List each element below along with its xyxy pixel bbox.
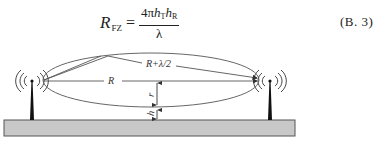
reflected-path-line-2 xyxy=(44,56,101,80)
zone-radius-label: r xyxy=(145,92,157,98)
ground-bar xyxy=(4,120,295,136)
reflected-path-label: R+λ/2 xyxy=(145,58,171,69)
reflected-path-line-3 xyxy=(108,56,142,63)
direct-path-label: R xyxy=(107,75,114,86)
reflected-path-line-4 xyxy=(176,66,257,78)
fresnel-zone-diagram: R+λ/2 R r h xyxy=(0,0,386,146)
clearance-height-label: h xyxy=(145,110,157,117)
